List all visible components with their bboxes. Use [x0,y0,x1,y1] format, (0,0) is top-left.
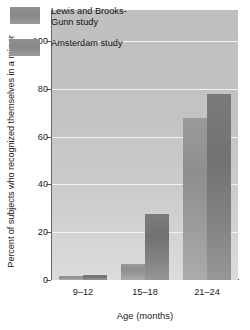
bar [59,276,83,280]
bar-chart-figure: Percent of subjects who recognized thems… [0,0,250,330]
y-tick-mark [46,280,51,281]
legend-swatch-icon-series-0 [10,7,40,24]
y-axis-title-text: Percent of subjects who recognized thems… [6,35,17,267]
bar [121,264,145,280]
legend-label-series-0: Lewis and Brooks- Gunn study [51,6,127,27]
legend-item-1: Amsterdam study [10,38,180,56]
y-tick-mark [46,232,51,233]
bar [145,214,169,280]
x-tick-label: 21–24 [194,287,220,297]
legend-label-series-1: Amsterdam study [51,38,122,49]
gridline [52,89,238,90]
y-tick-mark [46,184,51,185]
y-tick-label: 60 [22,132,48,142]
legend: Lewis and Brooks- Gunn study Amsterdam s… [10,6,180,67]
legend-item-0: Lewis and Brooks- Gunn study [10,6,180,27]
y-tick-label: 40 [22,179,48,189]
y-tick-label: 0 [22,275,48,285]
x-tick-label: 9–12 [73,287,93,297]
y-tick-label: 80 [22,84,48,94]
y-tick-mark [46,89,51,90]
legend-swatch-icon-series-1 [10,39,40,56]
x-tick-label: 15–18 [132,287,158,297]
y-tick-mark [46,41,51,42]
bar [183,118,207,280]
y-tick-label: 20 [22,227,48,237]
x-axis-title: Age (months) [52,310,238,321]
bar [207,94,231,280]
y-tick-mark [46,137,51,138]
bar [83,275,107,280]
